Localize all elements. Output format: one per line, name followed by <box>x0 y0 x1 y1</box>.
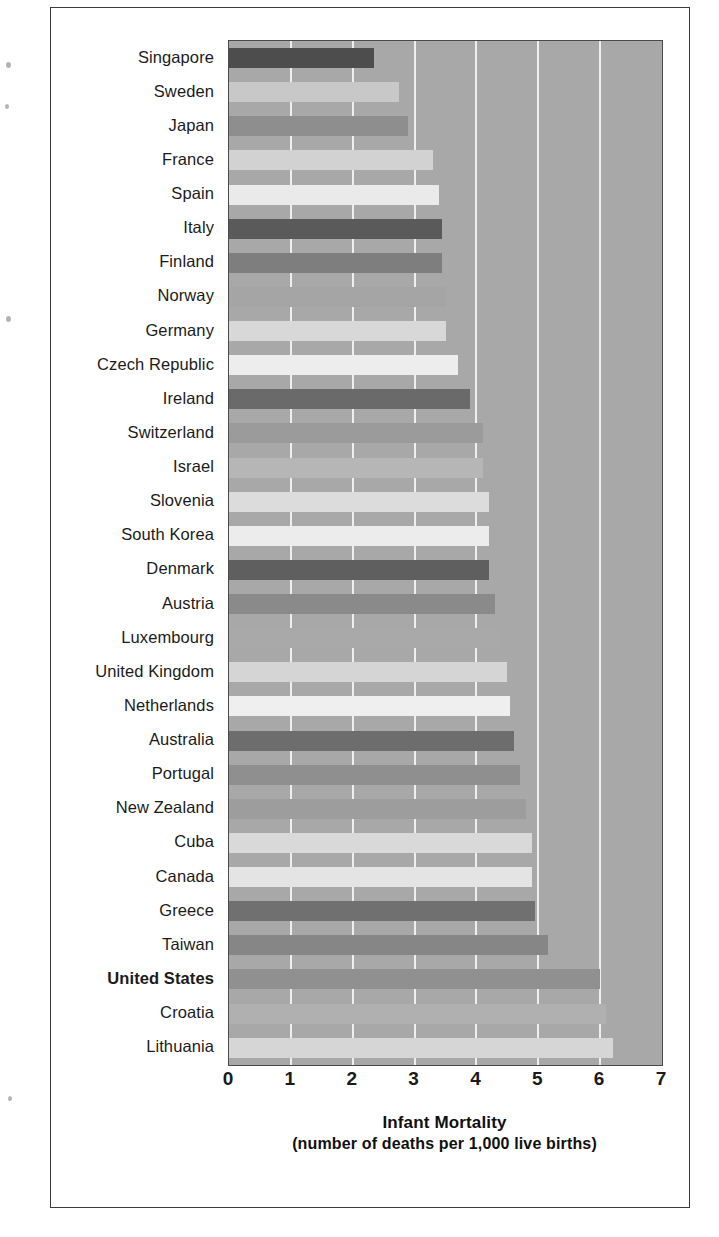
category-label-sweden: Sweden <box>51 74 223 108</box>
category-label-text: Luxembourg <box>121 628 214 647</box>
bar-row <box>229 587 662 621</box>
category-label-switzerland: Switzerland <box>51 415 223 449</box>
bar-sweden <box>229 82 399 102</box>
category-label-taiwan: Taiwan <box>51 927 223 961</box>
bar-row <box>229 1031 662 1065</box>
figure-frame: SingaporeSwedenJapanFranceSpainItalyFinl… <box>50 7 690 1208</box>
bar-row <box>229 451 662 485</box>
category-label-text: New Zealand <box>116 798 214 817</box>
category-label-france: France <box>51 142 223 176</box>
bar-row <box>229 792 662 826</box>
plot-area <box>228 40 663 1066</box>
bar-row <box>229 962 662 996</box>
category-axis-labels: SingaporeSwedenJapanFranceSpainItalyFinl… <box>51 40 223 1064</box>
bar-row <box>229 280 662 314</box>
bar-czech-republic <box>229 355 458 375</box>
category-label-norway: Norway <box>51 279 223 313</box>
x-tick-3: 3 <box>408 1068 419 1090</box>
bar-row <box>229 758 662 792</box>
bar-row <box>229 212 662 246</box>
category-label-slovenia: Slovenia <box>51 484 223 518</box>
bar-italy <box>229 219 442 239</box>
category-label-text: Canada <box>156 867 214 886</box>
bar-new-zealand <box>229 799 526 819</box>
x-tick-7: 7 <box>656 1068 667 1090</box>
bar-row <box>229 416 662 450</box>
category-label-text: Singapore <box>138 48 214 67</box>
page-speckle <box>6 316 11 322</box>
category-label-cuba: Cuba <box>51 825 223 859</box>
category-label-united-states: United States <box>51 961 223 995</box>
bar-germany <box>229 321 446 341</box>
bar-row <box>229 519 662 553</box>
bar-japan <box>229 116 408 136</box>
bar-lithuania <box>229 1038 613 1058</box>
x-tick-0: 0 <box>223 1068 234 1090</box>
category-label-ireland: Ireland <box>51 381 223 415</box>
bar-cuba <box>229 833 532 853</box>
category-label-austria: Austria <box>51 586 223 620</box>
bar-ireland <box>229 389 470 409</box>
category-label-text: Norway <box>157 286 214 305</box>
category-label-italy: Italy <box>51 211 223 245</box>
bar-croatia <box>229 1004 606 1024</box>
category-label-lithuania: Lithuania <box>51 1030 223 1064</box>
category-label-text: Germany <box>145 321 214 340</box>
page-speckle <box>6 62 11 68</box>
bar-row <box>229 553 662 587</box>
bar-row <box>229 928 662 962</box>
category-label-text: South Korea <box>121 525 214 544</box>
category-label-croatia: Croatia <box>51 996 223 1030</box>
category-label-text: Croatia <box>160 1003 214 1022</box>
category-label-text: Slovenia <box>150 491 214 510</box>
category-label-australia: Australia <box>51 723 223 757</box>
bar-row <box>229 246 662 280</box>
category-label-text: Ireland <box>163 389 214 408</box>
category-label-text: Switzerland <box>128 423 214 442</box>
category-label-text: Lithuania <box>146 1037 214 1056</box>
bar-row <box>229 178 662 212</box>
bar-taiwan <box>229 935 548 955</box>
bar-row <box>229 997 662 1031</box>
category-label-japan: Japan <box>51 108 223 142</box>
category-label-germany: Germany <box>51 313 223 347</box>
category-label-united-kingdom: United Kingdom <box>51 654 223 688</box>
category-label-text: Japan <box>169 116 214 135</box>
category-label-denmark: Denmark <box>51 552 223 586</box>
bar-row <box>229 485 662 519</box>
category-label-text: Greece <box>159 901 214 920</box>
category-label-israel: Israel <box>51 450 223 484</box>
category-label-text: Sweden <box>154 82 214 101</box>
category-label-text: United States <box>107 969 214 988</box>
bar-chart: SingaporeSwedenJapanFranceSpainItalyFinl… <box>51 8 691 1209</box>
bar-row <box>229 894 662 928</box>
bar-row <box>229 860 662 894</box>
bar-australia <box>229 731 514 751</box>
bar-norway <box>229 287 446 307</box>
category-label-luxembourg: Luxembourg <box>51 620 223 654</box>
bar-united-kingdom <box>229 662 507 682</box>
category-label-portugal: Portugal <box>51 757 223 791</box>
category-label-text: Netherlands <box>124 696 214 715</box>
x-tick-2: 2 <box>346 1068 357 1090</box>
bar-row <box>229 348 662 382</box>
bar-series <box>229 41 662 1065</box>
bar-finland <box>229 253 442 273</box>
bar-row <box>229 724 662 758</box>
bar-singapore <box>229 48 374 68</box>
page-speckle <box>8 1096 12 1101</box>
bar-denmark <box>229 560 489 580</box>
category-label-netherlands: Netherlands <box>51 688 223 722</box>
bar-luxembourg <box>229 628 501 648</box>
bar-netherlands <box>229 696 510 716</box>
category-label-text: Finland <box>159 252 214 271</box>
bar-portugal <box>229 765 520 785</box>
bar-spain <box>229 185 439 205</box>
category-label-czech-republic: Czech Republic <box>51 347 223 381</box>
category-label-spain: Spain <box>51 177 223 211</box>
category-label-singapore: Singapore <box>51 40 223 74</box>
bar-united-states <box>229 969 600 989</box>
category-label-text: Spain <box>171 184 214 203</box>
x-tick-1: 1 <box>285 1068 296 1090</box>
x-axis-title-main: Infant Mortality <box>382 1113 506 1132</box>
